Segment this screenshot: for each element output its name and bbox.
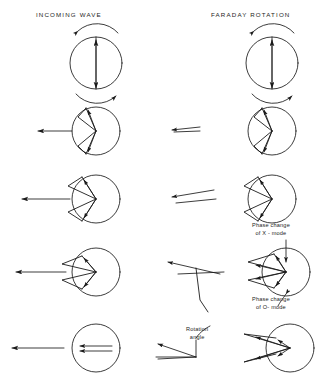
row-5-rotation-angle xyxy=(156,326,210,359)
row-3-right-circle xyxy=(244,175,296,223)
faraday-rotation-figure: INCOMING WAVE FARADAY ROTATION Phase cha… xyxy=(0,0,334,392)
row-5-right-circle xyxy=(244,324,314,372)
row-4-right-circle xyxy=(248,248,310,296)
row-1-left-circle xyxy=(70,24,122,104)
row-4-middle-angle xyxy=(168,262,224,312)
row-4-left-circle xyxy=(62,248,120,296)
row-3-middle-arrow xyxy=(172,190,216,203)
row-2-middle-arrow xyxy=(172,127,200,132)
row-1-right-circle xyxy=(246,24,298,104)
row-3-left-circle xyxy=(68,175,120,223)
row-2-right-circle xyxy=(248,107,296,155)
diagram-canvas xyxy=(0,0,334,392)
row-5-left-circle xyxy=(72,324,120,372)
row-2-left-circle xyxy=(72,107,120,155)
